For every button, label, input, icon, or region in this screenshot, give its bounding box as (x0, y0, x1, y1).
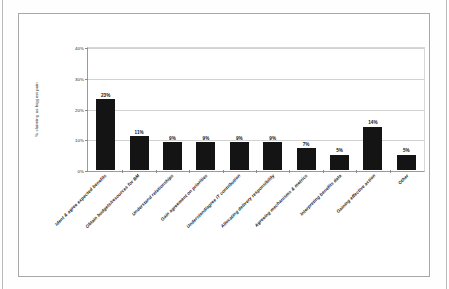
y-tick-mark (85, 110, 88, 111)
bar[interactable]: 7% (297, 148, 316, 170)
bar[interactable]: 9% (163, 142, 182, 170)
bar-value-label: 5% (336, 148, 343, 153)
page-edge-right (446, 0, 447, 289)
chart-page: % claiming as biggest pain 0%10%20%30%40… (0, 0, 449, 289)
bar-cell: 5% (390, 49, 423, 170)
bar-value-label: 9% (236, 136, 243, 141)
y-tick-label: 0% (77, 169, 84, 174)
bar[interactable]: 23% (96, 99, 115, 170)
y-tick-mark (85, 171, 88, 172)
bar-value-label: 11% (134, 130, 143, 135)
y-tick-label: 10% (75, 138, 84, 143)
bar-value-label: 14% (368, 120, 378, 125)
y-tick-label: 40% (75, 46, 84, 51)
y-axis-title: % claiming as biggest pain (31, 47, 41, 172)
plot-area: 0%10%20%30%40% 23%11%9%9%9%9%7%5%14%5% (87, 47, 425, 172)
page-edge-left (2, 0, 3, 289)
bar-value-label: 9% (269, 136, 276, 141)
bar-value-label: 23% (101, 93, 111, 98)
bar-cell: 9% (156, 49, 189, 170)
bar-cell: 11% (122, 49, 155, 170)
x-axis-labels: Ident & agree expected benefitsObtain bu… (87, 173, 425, 268)
bar[interactable]: 5% (397, 155, 416, 170)
bar-cell: 14% (356, 49, 389, 170)
bar-cell: 9% (256, 49, 289, 170)
y-tick-label: 30% (75, 76, 84, 81)
y-tick-mark (85, 48, 88, 49)
y-tick-mark (85, 79, 88, 80)
bar[interactable]: 5% (330, 155, 349, 170)
bar[interactable]: 14% (363, 127, 382, 170)
bar[interactable]: 11% (130, 136, 149, 170)
y-axis-title-text: % claiming as biggest pain (34, 82, 39, 137)
bar-value-label: 9% (169, 136, 176, 141)
bar[interactable]: 9% (196, 142, 215, 170)
y-tick-label: 20% (75, 107, 84, 112)
y-tick-mark (85, 140, 88, 141)
bar-cell: 9% (189, 49, 222, 170)
bar-series: 23%11%9%9%9%9%7%5%14%5% (89, 49, 423, 170)
bar-value-label: 5% (403, 148, 410, 153)
bar-cell: 9% (223, 49, 256, 170)
bar-cell: 5% (323, 49, 356, 170)
bar[interactable]: 9% (263, 142, 282, 170)
bar[interactable]: 9% (230, 142, 249, 170)
bar-value-label: 7% (303, 142, 310, 147)
bar-cell: 7% (289, 49, 322, 170)
bar-value-label: 9% (203, 136, 210, 141)
bar-cell: 23% (89, 49, 122, 170)
